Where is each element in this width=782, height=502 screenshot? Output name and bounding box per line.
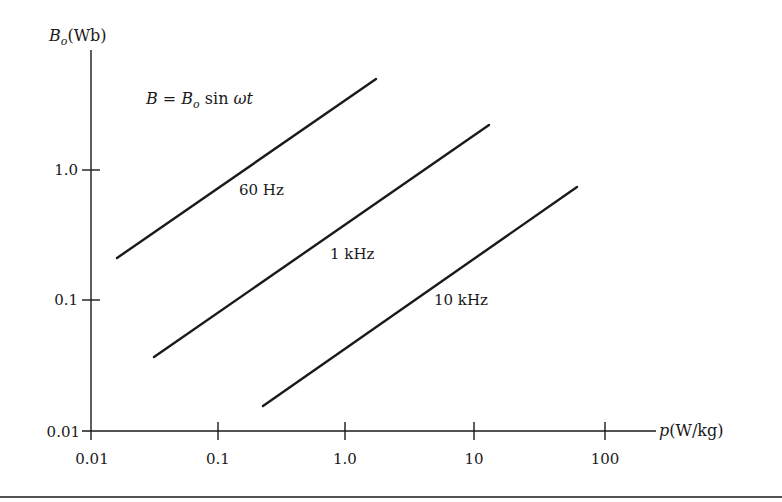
- eq-symbol-B0: B: [180, 89, 193, 108]
- eq-equals: =: [158, 89, 182, 108]
- x-tick-label-100: 100: [591, 450, 620, 468]
- series-label-60hz: 60 Hz: [239, 181, 284, 199]
- log-log-chart: 1.0 0.1 0.01 0.01 0.1 1.0 10 100 Bo(Wb) …: [0, 0, 782, 502]
- x-axis-symbol: p: [659, 421, 669, 440]
- y-tick-label-1.0: 1.0: [54, 161, 78, 179]
- eq-sin: sin: [200, 89, 234, 108]
- series-line-1khz: [154, 125, 489, 357]
- x-tick-label-10: 10: [464, 450, 483, 468]
- y-axis-unit: (Wb): [67, 26, 106, 45]
- x-axis-unit: (W/kg): [669, 421, 723, 440]
- eq-symbol-B: B: [145, 89, 158, 108]
- series-label-10khz: 10 kHz: [434, 291, 488, 309]
- y-tick-label-0.1: 0.1: [54, 291, 78, 309]
- x-tick-label-0.1: 0.1: [206, 450, 230, 468]
- eq-omega-t: ωt: [234, 89, 254, 108]
- x-tick-label-0.01: 0.01: [75, 450, 108, 468]
- x-tick-label-1.0: 1.0: [333, 450, 357, 468]
- y-axis-title: Bo(Wb): [48, 26, 107, 48]
- y-tick-label-0.01: 0.01: [47, 423, 80, 441]
- y-axis-symbol: B: [48, 26, 61, 45]
- series-line-10khz: [263, 187, 577, 406]
- x-axis-title: p(W/kg): [659, 421, 724, 440]
- series-label-1khz: 1 kHz: [330, 245, 374, 263]
- equation-annotation: B = Bo sin ωt: [145, 89, 254, 111]
